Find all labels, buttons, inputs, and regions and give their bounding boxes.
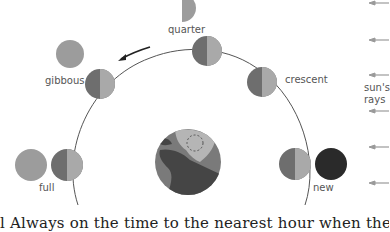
sun-ray-arrow-icon bbox=[369, 181, 389, 185]
moon-on-orbit-new bbox=[279, 148, 311, 180]
quarter-phase-appearance-icon bbox=[182, 0, 196, 22]
full-phase-appearance-icon bbox=[15, 149, 47, 181]
sun-rays-arrows bbox=[369, 1, 389, 185]
sun-ray-arrow-icon bbox=[369, 1, 389, 5]
sun-ray-arrow-icon bbox=[369, 73, 389, 77]
label-gibbous: gibbous bbox=[45, 75, 85, 86]
sun-ray-arrow-icon bbox=[369, 109, 389, 113]
sun-ray-arrow-icon bbox=[369, 38, 389, 42]
moon-on-orbit-gibbous bbox=[85, 69, 115, 99]
label-sun-rays-line2: rays bbox=[364, 94, 385, 105]
label-sun-rays-line1: sun's bbox=[364, 82, 390, 93]
gibbous-phase-appearance-icon bbox=[56, 40, 84, 68]
label-full: full bbox=[39, 182, 54, 193]
sun-ray-arrow-icon bbox=[369, 145, 389, 149]
moon-on-orbit-quarter bbox=[192, 36, 222, 66]
caption-text-partial: l Always on the time to the nearest hour… bbox=[0, 214, 389, 232]
new-phase-appearance-icon bbox=[315, 148, 347, 180]
label-new: new bbox=[313, 182, 334, 193]
earth-icon bbox=[155, 129, 222, 200]
label-crescent: crescent bbox=[285, 74, 328, 85]
orbit-direction-arrow-icon bbox=[118, 47, 150, 61]
moon-on-orbit-full bbox=[51, 149, 83, 181]
moon-on-orbit-crescent bbox=[247, 67, 277, 97]
label-quarter: quarter bbox=[168, 24, 205, 35]
crescent-phase-appearance-icon bbox=[322, 34, 352, 66]
